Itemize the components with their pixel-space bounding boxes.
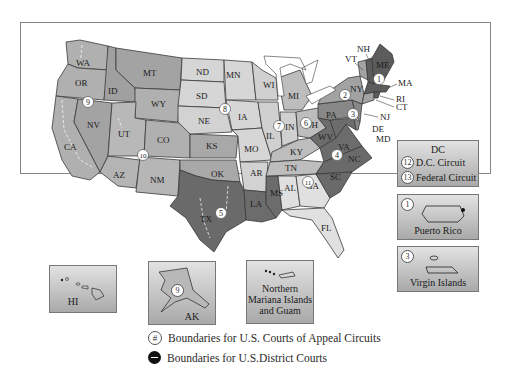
district-boundary-icon xyxy=(148,351,161,364)
svg-text:7: 7 xyxy=(277,122,281,131)
label-CA: CA xyxy=(64,142,77,152)
label-LA: LA xyxy=(250,199,262,209)
svg-text:10: 10 xyxy=(140,152,148,160)
circuit-marker-8: 8 xyxy=(220,104,231,115)
circuit-1-marker: 1 xyxy=(401,198,414,211)
circuit-marker-9: 9 xyxy=(83,97,94,108)
hawaii-label: HI xyxy=(30,296,116,307)
svg-text:9: 9 xyxy=(86,98,90,107)
puerto-rico-label: Puerto Rico xyxy=(398,225,478,236)
svg-text:4: 4 xyxy=(335,151,339,160)
svg-text:8: 8 xyxy=(223,105,227,114)
label-VT: VT xyxy=(345,54,357,64)
label-FL: FL xyxy=(321,223,332,233)
label-MA: MA xyxy=(398,78,413,88)
label-MS: MS xyxy=(270,188,283,198)
label-NV: NV xyxy=(87,120,100,130)
label-TN: TN xyxy=(285,163,297,173)
label-WV: WV xyxy=(318,132,333,142)
marianas-shape xyxy=(263,267,299,281)
label-WY: WY xyxy=(151,99,166,109)
label-MN: MN xyxy=(226,70,241,80)
circuit-marker-2: 2 xyxy=(340,90,351,101)
svg-text:2: 2 xyxy=(343,91,347,100)
virgin-islands-shape xyxy=(422,253,462,277)
circuit-marker-4: 4 xyxy=(332,150,343,161)
state-RI xyxy=(374,92,380,98)
circuit-marker-5: 5 xyxy=(216,208,227,219)
svg-text:3: 3 xyxy=(351,110,355,119)
label-MD: MD xyxy=(376,134,391,144)
circuit-12-marker: 12 xyxy=(401,156,414,169)
label-MT: MT xyxy=(143,68,157,78)
circuit-symbol-icon: # xyxy=(148,331,162,345)
dc-title: DC xyxy=(398,144,478,155)
circuit-marker-1: 1 xyxy=(374,74,385,85)
label-ID: ID xyxy=(108,86,118,96)
label-ME: ME xyxy=(376,60,390,70)
circuit-9-alaska-marker: 9 xyxy=(171,284,184,297)
label-AR: AR xyxy=(250,168,263,178)
puerto-rico-shape xyxy=(418,200,468,226)
label-AL: AL xyxy=(284,183,296,193)
circuit-marker-3: 3 xyxy=(348,109,359,120)
circuit-marker-10: 10 xyxy=(138,150,149,161)
label-UT: UT xyxy=(118,129,130,139)
label-IA: IA xyxy=(238,112,248,122)
label-CO: CO xyxy=(157,135,170,145)
label-PA: PA xyxy=(326,110,337,120)
legend-district-text: Boundaries for U.S.District Courts xyxy=(167,352,327,364)
alaska-label: AK xyxy=(169,311,215,322)
label-NC: NC xyxy=(348,154,361,164)
svg-text:11: 11 xyxy=(305,179,312,187)
circuit-marker-6: 6 xyxy=(301,118,312,129)
label-OK: OK xyxy=(211,169,224,179)
legend-district-boundaries: Boundaries for U.S.District Courts xyxy=(148,351,327,364)
marianas-label-1: Northern xyxy=(247,283,313,294)
label-TX: TX xyxy=(200,214,212,224)
state-TX xyxy=(170,170,246,252)
svg-text:1: 1 xyxy=(377,75,381,84)
state-FL xyxy=(282,208,344,258)
marianas-label-2: Mariana Islands xyxy=(247,294,313,305)
label-WI: WI xyxy=(263,80,275,90)
federal-circuit-label: Federal Circuit xyxy=(416,172,476,183)
circuit-3-marker: 3 xyxy=(401,250,414,263)
label-KY: KY xyxy=(290,147,303,157)
virgin-islands-label: Virgin Islands xyxy=(398,277,478,288)
label-NE: NE xyxy=(198,116,210,126)
marianas-label-3: and Guam xyxy=(247,305,313,316)
label-OR: OR xyxy=(75,78,88,88)
dc-inset: DC 12 D.C. Circuit 13 Federal Circuit xyxy=(397,140,479,187)
label-DE: DE xyxy=(372,124,384,134)
label-CT: CT xyxy=(396,102,408,112)
alaska-inset: 9 AK xyxy=(148,261,216,325)
label-ND: ND xyxy=(196,67,209,77)
label-MI: MI xyxy=(288,91,299,101)
circuit-13-marker: 13 xyxy=(401,171,414,184)
legend-circuit-boundaries: # Boundaries for U.S. Courts of Appeal C… xyxy=(148,331,381,345)
label-AZ: AZ xyxy=(113,170,125,180)
federal-circuit-row: 13 Federal Circuit xyxy=(401,171,476,184)
dc-circuit-label: D.C. Circuit xyxy=(416,157,465,168)
label-IL: IL xyxy=(266,131,275,141)
label-NJ: NJ xyxy=(380,112,390,122)
dc-circuit-row: 12 D.C. Circuit xyxy=(401,156,465,169)
circuit-marker-7: 7 xyxy=(274,121,285,132)
label-KS: KS xyxy=(206,141,218,151)
label-WA: WA xyxy=(76,58,90,68)
circuit-marker-11: 11 xyxy=(303,177,314,188)
label-NH: NH xyxy=(357,44,370,54)
state-MN xyxy=(224,60,256,100)
hawaii-inset: HI xyxy=(49,265,117,313)
label-IN: IN xyxy=(285,122,295,132)
svg-text:6: 6 xyxy=(304,119,308,128)
label-NM: NM xyxy=(150,175,165,185)
puerto-rico-inset: 1 Puerto Rico xyxy=(397,194,479,240)
legend-circuit-text: Boundaries for U.S. Courts of Appeal Cir… xyxy=(168,332,381,344)
label-SC: SC xyxy=(330,172,341,182)
label-SD: SD xyxy=(196,91,208,101)
label-NY: NY xyxy=(350,84,363,94)
label-MO: MO xyxy=(244,144,259,154)
virgin-islands-inset: 3 Virgin Islands xyxy=(397,246,479,292)
